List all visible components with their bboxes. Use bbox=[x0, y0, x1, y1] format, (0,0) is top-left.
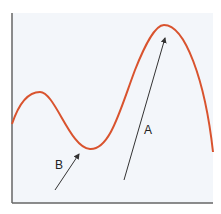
plot-area bbox=[12, 13, 213, 203]
label-a: A bbox=[144, 123, 152, 137]
diagram: A B bbox=[0, 0, 221, 214]
diagram-canvas: A B bbox=[0, 0, 221, 214]
label-b: B bbox=[55, 158, 63, 172]
